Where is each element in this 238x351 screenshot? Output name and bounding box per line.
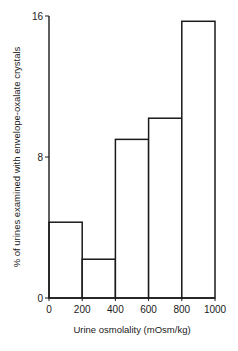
histogram-chart: 0816 02004006008001000 Urine osmolality … [0,0,238,351]
y-tick-label: 8 [37,152,43,163]
x-tick-label: 800 [173,304,190,315]
x-ticks: 02004006008001000 [46,298,226,315]
x-axis-label: Urine osmolality (mOsm/kg) [73,324,190,335]
x-tick-label: 0 [46,304,52,315]
x-tick-label: 400 [107,304,124,315]
y-tick-label: 16 [32,11,44,22]
histogram-bar [49,222,82,298]
y-axis-label: % of urines examined with envelope-oxala… [11,46,22,267]
y-ticks: 0816 [32,11,49,304]
x-tick-label: 200 [74,304,91,315]
histogram-bar [115,139,148,298]
x-tick-label: 1000 [204,304,227,315]
bars [49,21,215,298]
histogram-bar [82,259,115,298]
x-tick-label: 600 [140,304,157,315]
y-tick-label: 0 [37,293,43,304]
histogram-bar [182,21,215,298]
histogram-bar [149,118,182,298]
